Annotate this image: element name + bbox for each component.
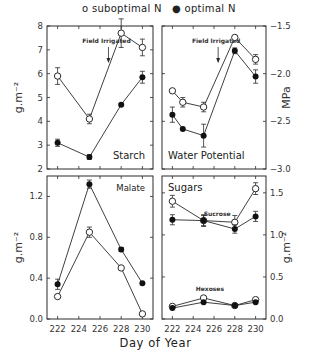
svg-text:5: 5 xyxy=(38,93,43,103)
svg-text:0.5: 0.5 xyxy=(270,272,284,282)
marker-open xyxy=(180,99,186,105)
svg-text:0.0: 0.0 xyxy=(270,314,284,324)
marker-filled xyxy=(253,74,259,80)
svg-text:1.5: 1.5 xyxy=(270,188,284,198)
svg-text:222: 222 xyxy=(164,324,180,334)
svg-text:−1.5: −1.5 xyxy=(270,21,291,31)
svg-text:MPa: MPa xyxy=(280,86,293,108)
panel-sugars: 2222242262282300.00.51.01.5g.m⁻²SugarsSu… xyxy=(162,176,293,334)
svg-text:226: 226 xyxy=(92,324,108,334)
marker-open xyxy=(139,311,145,317)
svg-text:7: 7 xyxy=(38,45,43,55)
svg-text:4: 4 xyxy=(38,116,43,126)
svg-text:1.2: 1.2 xyxy=(29,191,43,201)
marker-open xyxy=(169,198,175,204)
marker-filled xyxy=(253,299,259,305)
marker-open xyxy=(54,73,60,79)
x-axis-label: Day of Year xyxy=(0,336,311,350)
marker-filled xyxy=(201,133,207,139)
svg-text:g.m⁻²: g.m⁻² xyxy=(280,232,293,263)
panel-malate: 2222242262282300.00.40.81.2g.m⁻²Malate xyxy=(12,176,153,334)
marker-open xyxy=(200,104,206,110)
marker-open xyxy=(118,265,124,271)
marker-filled xyxy=(118,247,124,253)
svg-text:0.8: 0.8 xyxy=(29,232,43,242)
marker-filled xyxy=(201,299,207,305)
panel-title: Water Potential xyxy=(168,150,245,161)
svg-text:230: 230 xyxy=(247,324,263,334)
svg-text:0.4: 0.4 xyxy=(29,273,43,283)
marker-open xyxy=(252,185,258,191)
svg-text:6: 6 xyxy=(38,69,43,79)
marker-open xyxy=(54,293,60,299)
marker-filled xyxy=(139,74,145,80)
svg-text:Field Irrigated: Field Irrigated xyxy=(82,37,130,45)
marker-filled xyxy=(180,126,186,132)
marker-filled xyxy=(169,112,175,118)
marker-filled xyxy=(86,181,92,187)
svg-text:2: 2 xyxy=(38,164,43,174)
marker-open xyxy=(118,30,124,36)
figure: 2345678g.m⁻²StarchField Irrigated−3.0−2.… xyxy=(0,0,311,363)
svg-text:−3.0: −3.0 xyxy=(270,164,291,174)
marker-filled xyxy=(118,102,124,108)
marker-filled xyxy=(201,218,207,224)
panel-title: Malate xyxy=(116,183,145,193)
marker-filled xyxy=(232,303,238,309)
marker-filled xyxy=(55,281,61,287)
marker-filled xyxy=(86,154,92,160)
marker-open xyxy=(232,34,238,40)
marker-open xyxy=(169,88,175,94)
svg-text:g.m⁻²: g.m⁻² xyxy=(12,232,25,263)
panel-title: Sugars xyxy=(168,182,202,193)
svg-text:222: 222 xyxy=(49,324,65,334)
marker-filled xyxy=(232,48,238,54)
svg-text:228: 228 xyxy=(227,324,243,334)
marker-open xyxy=(139,44,145,50)
panel-water-potential: −3.0−2.5−2.0−1.5MPaWater PotentialField … xyxy=(162,21,293,174)
svg-text:224: 224 xyxy=(71,324,87,334)
marker-open xyxy=(86,116,92,122)
svg-text:−2.0: −2.0 xyxy=(270,69,291,79)
panel-starch: 2345678g.m⁻²StarchField Irrigated xyxy=(12,19,153,174)
svg-text:−2.5: −2.5 xyxy=(270,116,291,126)
marker-open xyxy=(252,56,258,62)
svg-text:230: 230 xyxy=(134,324,150,334)
panel-title: Starch xyxy=(113,150,145,161)
marker-filled xyxy=(253,213,259,219)
marker-filled xyxy=(169,217,175,223)
svg-text:228: 228 xyxy=(113,324,129,334)
marker-filled xyxy=(55,140,61,146)
svg-text:224: 224 xyxy=(185,324,201,334)
svg-text:Sucrose: Sucrose xyxy=(204,210,231,217)
svg-text:3: 3 xyxy=(38,140,43,150)
marker-filled xyxy=(139,280,145,286)
svg-text:g.m⁻²: g.m⁻² xyxy=(12,82,25,113)
marker-open xyxy=(86,229,92,235)
svg-text:226: 226 xyxy=(206,324,222,334)
svg-text:8: 8 xyxy=(38,21,43,31)
svg-text:Hexoses: Hexoses xyxy=(196,285,225,292)
marker-filled xyxy=(232,226,238,232)
marker-filled xyxy=(169,305,175,311)
svg-text:0.0: 0.0 xyxy=(29,314,43,324)
